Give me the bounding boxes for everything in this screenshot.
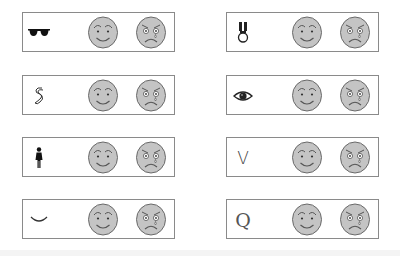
panel-woman (22, 137, 175, 177)
happy-face (291, 79, 323, 112)
happy-face (87, 79, 119, 112)
sad-crying-face (339, 141, 371, 174)
squiggle-s-icon (27, 84, 51, 108)
sad-crying-face (339, 79, 371, 112)
panel-sunglasses (22, 12, 175, 52)
happy-face (291, 203, 323, 236)
sad-crying-face (135, 141, 167, 174)
bottom-edge (0, 250, 400, 256)
woman-figure-icon (27, 146, 51, 170)
panel-smile-curve (22, 199, 175, 239)
smile-curve-icon (27, 208, 51, 232)
medal-icon (231, 21, 255, 45)
eye-icon (231, 84, 255, 108)
panel-letter-q: Q (226, 199, 379, 239)
letter-q: Q (231, 208, 255, 232)
letter-v: V (231, 146, 255, 170)
happy-face (291, 141, 323, 174)
happy-face (87, 203, 119, 236)
happy-face (87, 16, 119, 49)
sunglasses-icon (27, 21, 51, 45)
sad-crying-face (135, 16, 167, 49)
happy-face (87, 141, 119, 174)
sad-crying-face (135, 79, 167, 112)
panel-squiggle (22, 75, 175, 115)
sad-crying-face (339, 203, 371, 236)
panel-letter-v: V (226, 137, 379, 177)
panel-eye (226, 75, 379, 115)
sad-crying-face (135, 203, 167, 236)
happy-face (291, 16, 323, 49)
sad-crying-face (339, 16, 371, 49)
panel-medal (226, 12, 379, 52)
